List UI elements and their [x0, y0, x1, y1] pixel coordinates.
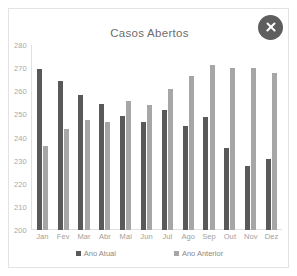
plot-area: 280270260250240230220210200 [31, 45, 282, 230]
bar-ano-anterior[interactable] [168, 89, 173, 230]
y-axis-tick-label: 270 [14, 64, 27, 73]
bar-ano-atual[interactable] [37, 69, 42, 230]
bar-group [32, 45, 53, 230]
y-axis-tick-label: 260 [14, 87, 27, 96]
legend-label: Ano Atual [84, 249, 116, 258]
x-axis-ticks: JanFevMarAbrMaiJunJulAgoSepOutNovDez [32, 232, 282, 241]
bar-ano-atual[interactable] [245, 166, 250, 230]
x-axis-tick-label: Nov [240, 232, 261, 241]
bar-ano-atual[interactable] [78, 95, 83, 230]
legend-item[interactable]: Ano Atual [76, 249, 116, 258]
bar-ano-anterior[interactable] [126, 101, 131, 231]
bar-group [53, 45, 74, 230]
x-axis-tick-label: Jun [136, 232, 157, 241]
bar-groups [32, 45, 282, 230]
bar-ano-anterior[interactable] [105, 122, 110, 230]
x-axis-tick-label: Jan [32, 232, 53, 241]
x-axis-tick-label: Mar [74, 232, 95, 241]
bar-ano-anterior[interactable] [230, 68, 235, 230]
bar-ano-anterior[interactable] [43, 146, 48, 230]
bar-group [157, 45, 178, 230]
y-axis-tick-label: 220 [14, 179, 27, 188]
bar-ano-atual[interactable] [203, 117, 208, 230]
bar-group [115, 45, 136, 230]
x-axis-tick-label: Out [219, 232, 240, 241]
bar-ano-anterior[interactable] [147, 105, 152, 230]
bar-ano-atual[interactable] [224, 148, 229, 230]
bar-ano-anterior[interactable] [251, 68, 256, 230]
bar-ano-anterior[interactable] [272, 73, 277, 230]
x-axis-tick-label: Abr [94, 232, 115, 241]
legend-swatch [174, 251, 179, 256]
bar-group [94, 45, 115, 230]
bar-ano-atual[interactable] [120, 116, 125, 230]
bar-ano-anterior[interactable] [64, 129, 69, 230]
x-axis-tick-label: Sep [199, 232, 220, 241]
y-axis-tick-label: 230 [14, 156, 27, 165]
chart-card: Casos Abertos 28027026025024023022021020… [8, 8, 289, 268]
x-axis-tick-label: Mai [115, 232, 136, 241]
legend-label: Ano Anterior [182, 249, 223, 258]
bar-group [240, 45, 261, 230]
bar-ano-atual[interactable] [266, 159, 271, 230]
y-axis-tick-label: 200 [14, 226, 27, 235]
bar-group [74, 45, 95, 230]
x-axis-tick-label: Fev [53, 232, 74, 241]
bar-ano-atual[interactable] [141, 122, 146, 230]
bar-ano-atual[interactable] [58, 81, 63, 230]
x-axis-tick-label: Dez [261, 232, 282, 241]
bar-ano-atual[interactable] [183, 126, 188, 230]
x-axis-tick-label: Jul [157, 232, 178, 241]
bar-group [219, 45, 240, 230]
chart-title: Casos Abertos [9, 27, 290, 39]
y-axis-tick-label: 250 [14, 110, 27, 119]
chart-legend: Ano AtualAno Anterior [9, 249, 290, 258]
bar-group [178, 45, 199, 230]
legend-swatch [76, 251, 81, 256]
y-axis-tick-label: 210 [14, 202, 27, 211]
bar-group [136, 45, 157, 230]
x-axis-tick-label: Ago [178, 232, 199, 241]
legend-item[interactable]: Ano Anterior [174, 249, 223, 258]
bar-ano-anterior[interactable] [85, 120, 90, 230]
bar-group [199, 45, 220, 230]
bar-group [261, 45, 282, 230]
bar-ano-atual[interactable] [162, 110, 167, 230]
bar-ano-anterior[interactable] [189, 76, 194, 230]
bar-ano-atual[interactable] [99, 104, 104, 230]
bar-ano-anterior[interactable] [210, 65, 215, 230]
y-axis-tick-label: 240 [14, 133, 27, 142]
close-icon[interactable] [258, 15, 283, 40]
y-axis-tick-label: 280 [14, 41, 27, 50]
